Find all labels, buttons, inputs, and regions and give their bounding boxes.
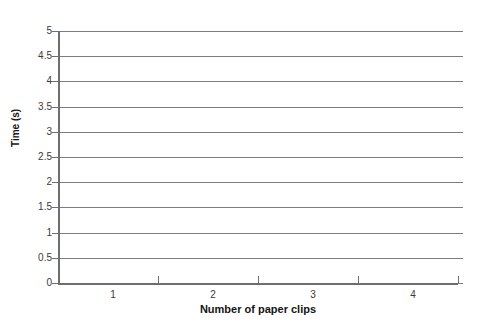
y-tick-mark-3 bbox=[52, 132, 58, 133]
y-tick-mark-2-5 bbox=[52, 157, 58, 158]
y-tick-mark-1-5 bbox=[52, 207, 58, 208]
x-tick-label-2: 2 bbox=[193, 289, 233, 300]
gridline-4 bbox=[58, 81, 463, 82]
y-tick-label-2: 2 bbox=[6, 177, 52, 187]
y-tick-mark-2 bbox=[52, 182, 58, 183]
x-tick-label-4: 4 bbox=[393, 289, 433, 300]
y-tick-label-0-5: 0.5 bbox=[6, 253, 52, 263]
gridline-4-5 bbox=[58, 56, 463, 57]
y-tick-label-1: 1 bbox=[6, 228, 52, 238]
x-axis-line bbox=[58, 283, 458, 285]
y-axis-line bbox=[58, 31, 60, 284]
y-tick-mark-3-5 bbox=[52, 107, 58, 108]
x-tick-mark-0 bbox=[58, 276, 59, 283]
x-tick-mark-2 bbox=[258, 276, 259, 283]
y-tick-mark-0-5 bbox=[52, 258, 58, 259]
y-tick-label-0: 0 bbox=[6, 278, 52, 288]
chart-container: 5 4.5 4 3.5 3 2.5 2 1.5 1 0.5 0 1 2 3 4 … bbox=[0, 0, 482, 329]
y-tick-mark-0 bbox=[52, 283, 58, 284]
gridline-0-5 bbox=[58, 258, 463, 259]
x-tick-mark-4 bbox=[458, 276, 459, 283]
x-tick-mark-1 bbox=[158, 276, 159, 283]
y-tick-mark-5 bbox=[52, 31, 58, 32]
gridline-3-5 bbox=[58, 107, 463, 108]
x-tick-label-1: 1 bbox=[93, 289, 133, 300]
gridline-3 bbox=[58, 132, 463, 133]
y-tick-mark-4-5 bbox=[52, 56, 58, 57]
y-axis-title: Time (s) bbox=[9, 133, 23, 147]
y-tick-label-5: 5 bbox=[6, 26, 52, 36]
gridline-2-5 bbox=[58, 157, 463, 158]
x-tick-label-3: 3 bbox=[293, 289, 333, 300]
x-axis-title: Number of paper clips bbox=[58, 303, 458, 315]
x-tick-mark-3 bbox=[358, 276, 359, 283]
gridline-2 bbox=[58, 182, 463, 183]
y-tick-label-2-5: 2.5 bbox=[6, 152, 52, 162]
plot-area bbox=[58, 31, 463, 283]
y-tick-label-4: 4 bbox=[6, 76, 52, 86]
y-tick-mark-1 bbox=[52, 233, 58, 234]
y-tick-label-4-5: 4.5 bbox=[6, 51, 52, 61]
gridline-1-5 bbox=[58, 207, 463, 208]
y-tick-label-group: 5 4.5 4 3.5 3 2.5 2 1.5 1 0.5 0 bbox=[0, 0, 52, 329]
gridline-5 bbox=[58, 31, 463, 32]
gridline-1 bbox=[58, 233, 463, 234]
y-tick-mark-4 bbox=[52, 81, 58, 82]
y-tick-label-1-5: 1.5 bbox=[6, 202, 52, 212]
